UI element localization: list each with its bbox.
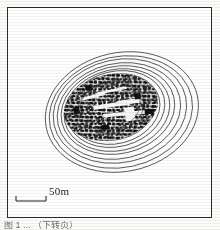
scale-bar-line xyxy=(16,196,46,201)
figure-frame: 50m xyxy=(7,7,212,218)
figure-caption-text: 图 1 ... （下转页） xyxy=(4,221,78,230)
contour-plot-svg xyxy=(8,8,211,217)
figure-page: 50m 图 1 ... （下转页） xyxy=(0,0,220,230)
contour-plot xyxy=(8,8,211,217)
figure-caption: 图 1 ... （下转页） xyxy=(4,221,218,230)
scale-bar-label: 50m xyxy=(49,185,69,197)
scale-bar: 50m xyxy=(13,187,108,209)
